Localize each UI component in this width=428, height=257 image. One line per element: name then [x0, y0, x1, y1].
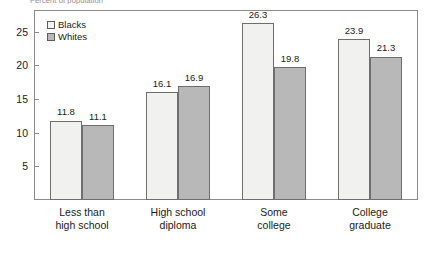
x-axis-category-line: Less than [34, 206, 130, 219]
bar-value-label: 19.8 [266, 54, 314, 64]
bar-blacks [50, 121, 82, 201]
x-axis-category-label: Collegegraduate [322, 206, 418, 232]
bar-blacks [338, 39, 370, 200]
x-axis-category-label: Less thanhigh school [34, 206, 130, 232]
bar-value-label: 23.9 [330, 26, 378, 36]
bar-whites [370, 57, 402, 201]
x-axis-category-line: college [226, 219, 322, 232]
chart-supertitle: Percent of population [30, 0, 103, 4]
x-axis-category-label: High schooldiploma [130, 206, 226, 232]
bar-value-label: 21.3 [362, 43, 410, 53]
x-axis-category-label: Somecollege [226, 206, 322, 232]
x-axis-category-line: high school [34, 219, 130, 232]
bars-inner: 11.811.116.116.926.319.823.921.3 [34, 10, 418, 200]
bars-layer: 11.811.116.116.926.319.823.921.3 [34, 10, 418, 200]
y-axis-label: 5 [2, 161, 28, 172]
bar-whites [274, 67, 306, 200]
bar-blacks [242, 23, 274, 200]
y-axis-label: 15 [2, 94, 28, 105]
y-axis-label: 25 [2, 27, 28, 38]
y-axis-label: 20 [2, 60, 28, 71]
x-axis-category-line: College [322, 206, 418, 219]
bar-value-label: 16.9 [170, 73, 218, 83]
bar-whites [178, 86, 210, 200]
bar-blacks [146, 92, 178, 200]
bar-chart-figure: Percent of population 510152025 Blacks W… [0, 0, 428, 257]
x-axis-category-line: Some [226, 206, 322, 219]
bar-whites [82, 125, 114, 200]
x-axis-category-line: High school [130, 206, 226, 219]
y-axis-label: 10 [2, 128, 28, 139]
x-axis-category-line: graduate [322, 219, 418, 232]
bar-value-label: 11.1 [74, 112, 122, 122]
x-axis-category-line: diploma [130, 219, 226, 232]
bar-value-label: 26.3 [234, 10, 282, 20]
